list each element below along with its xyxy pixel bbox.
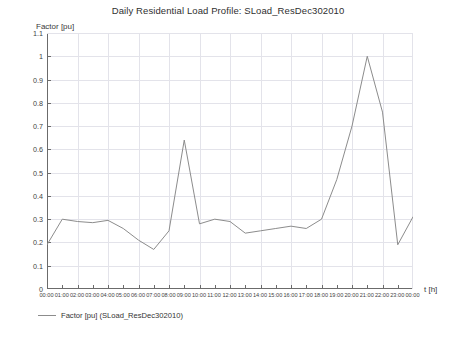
- x-tick-label: 01:00: [55, 292, 69, 298]
- y-tick-label: 1: [21, 52, 43, 61]
- x-tick-label: 16:00: [284, 292, 298, 298]
- y-tick-label: 0.9: [21, 76, 43, 85]
- x-tick-label: 11:00: [207, 292, 221, 298]
- chart-legend: Factor [pu] (SLoad_ResDec302010): [38, 311, 183, 320]
- x-tick-label: 13:00: [238, 292, 252, 298]
- x-tick-label: 07:00: [146, 292, 160, 298]
- x-tick-label: 08:00: [162, 292, 176, 298]
- chart-container: Daily Residential Load Profile: SLoad_Re…: [0, 0, 456, 338]
- y-tick-label: 0.6: [21, 145, 43, 154]
- x-tick-label: 21:00: [360, 292, 374, 298]
- x-tick-label: 04:00: [101, 292, 115, 298]
- x-tick-label: 14:00: [253, 292, 267, 298]
- x-tick-label: 02:00: [70, 292, 84, 298]
- x-tick-label: 06:00: [131, 292, 145, 298]
- x-tick-label: 12:00: [223, 292, 237, 298]
- plot-area: [47, 33, 413, 289]
- x-tick-label: 05:00: [116, 292, 130, 298]
- x-tick-label: 10:00: [192, 292, 206, 298]
- x-axis-label: t [h]: [424, 285, 437, 294]
- x-tick-label: 20:00: [345, 292, 359, 298]
- y-tick-label: 0.3: [21, 215, 43, 224]
- x-tick-label: 17:00: [299, 292, 313, 298]
- x-tick-label: 22:00: [375, 292, 389, 298]
- chart-title: Daily Residential Load Profile: SLoad_Re…: [0, 5, 456, 16]
- y-tick-label: 0.2: [21, 238, 43, 247]
- y-tick-label: 1.1: [21, 29, 43, 38]
- legend-label-factor: Factor [pu] (SLoad_ResDec302010): [61, 311, 183, 320]
- x-tick-label: 03:00: [85, 292, 99, 298]
- x-tick-label: 23:00: [390, 292, 404, 298]
- y-tick-label: 0.8: [21, 99, 43, 108]
- x-tick-label: 18:00: [314, 292, 328, 298]
- x-tick-label: 00:00: [40, 292, 54, 298]
- y-tick-label: 0.7: [21, 122, 43, 131]
- x-tick-label: 00:00: [406, 292, 420, 298]
- x-tick-label: 15:00: [268, 292, 282, 298]
- x-tick-label: 09:00: [177, 292, 191, 298]
- plot-svg: [47, 33, 413, 289]
- y-tick-label: 0.5: [21, 169, 43, 178]
- x-tick-label: 19:00: [329, 292, 343, 298]
- y-tick-label: 0.4: [21, 192, 43, 201]
- grid-lines: [47, 33, 413, 289]
- y-tick-label: 0.1: [21, 262, 43, 271]
- legend-line-swatch: [38, 315, 56, 316]
